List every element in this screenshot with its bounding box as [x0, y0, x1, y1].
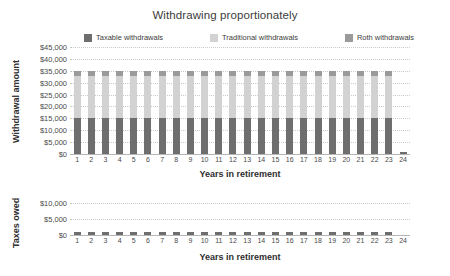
stacked-bar[interactable] [244, 71, 251, 154]
bar-column[interactable]: 15 [268, 47, 282, 154]
stacked-bar[interactable] [300, 71, 307, 154]
bar-column[interactable]: 2 [84, 47, 98, 154]
bar-segment [173, 76, 180, 119]
bar-column[interactable]: 14 [254, 47, 268, 154]
bar-column[interactable]: 21 [353, 47, 367, 154]
bar-segment [244, 76, 251, 119]
x-tick-label: 5 [132, 156, 136, 163]
x-tick-label: 15 [272, 156, 280, 163]
bar-column[interactable]: 7 [155, 196, 169, 235]
bar-column[interactable]: 17 [297, 196, 311, 235]
stacked-bar[interactable] [102, 71, 109, 154]
bar-column[interactable]: 12 [226, 196, 240, 235]
bar-column[interactable]: 24 [396, 47, 410, 154]
bar-column[interactable]: 24 [396, 196, 410, 235]
bar-segment [315, 118, 322, 154]
stacked-bar[interactable] [400, 152, 407, 154]
bar-column[interactable]: 18 [311, 196, 325, 235]
bar-column[interactable]: 21 [353, 196, 367, 235]
bar-column[interactable]: 20 [339, 47, 353, 154]
legend-item-roth[interactable]: Roth withdrawals [345, 33, 414, 42]
bar-column[interactable]: 4 [113, 47, 127, 154]
bar-column[interactable]: 23 [382, 47, 396, 154]
stacked-bar[interactable] [187, 71, 194, 154]
stacked-bar[interactable] [173, 71, 180, 154]
x-tick-label: 24 [399, 156, 407, 163]
bar-column[interactable]: 19 [325, 196, 339, 235]
bar-column[interactable]: 16 [283, 196, 297, 235]
stacked-bar[interactable] [159, 71, 166, 154]
bar-column[interactable]: 5 [127, 196, 141, 235]
bar-column[interactable]: 3 [98, 47, 112, 154]
bar-column[interactable]: 13 [240, 196, 254, 235]
bar-column[interactable]: 9 [183, 47, 197, 154]
stacked-bar[interactable] [329, 71, 336, 154]
x-tick-label: 22 [371, 156, 379, 163]
bar-column[interactable]: 6 [141, 196, 155, 235]
stacked-bar[interactable] [357, 71, 364, 154]
bar-segment [343, 118, 350, 154]
bar [144, 232, 151, 235]
x-tick-label: 9 [189, 156, 193, 163]
bar-column[interactable]: 11 [212, 47, 226, 154]
stacked-bar[interactable] [258, 71, 265, 154]
bar-column[interactable]: 11 [212, 196, 226, 235]
bar-segment [116, 118, 123, 154]
stacked-bar[interactable] [315, 71, 322, 154]
x-tick-label: 10 [201, 237, 209, 244]
bar-column[interactable]: 16 [283, 47, 297, 154]
bar-segment [329, 76, 336, 119]
bar-column[interactable]: 3 [98, 196, 112, 235]
stacked-bar[interactable] [343, 71, 350, 154]
legend-item-taxable[interactable]: Taxable withdrawals [84, 33, 163, 42]
stacked-bar[interactable] [201, 71, 208, 154]
bar-column[interactable]: 8 [169, 196, 183, 235]
bar-column[interactable]: 14 [254, 196, 268, 235]
bar-column[interactable]: 22 [368, 47, 382, 154]
bar-column[interactable]: 5 [127, 47, 141, 154]
bar-column[interactable]: 19 [325, 47, 339, 154]
legend-item-traditional[interactable]: Traditional withdrawals [210, 33, 298, 42]
x-tick-label: 11 [215, 237, 222, 244]
stacked-bar[interactable] [130, 71, 137, 154]
stacked-bar[interactable] [88, 71, 95, 154]
stacked-bar[interactable] [229, 71, 236, 154]
bar-segment [173, 118, 180, 154]
y-tick-label: $45,000 [17, 43, 67, 52]
bar-column[interactable]: 10 [198, 47, 212, 154]
bar-column[interactable]: 4 [113, 196, 127, 235]
bar-column[interactable]: 9 [183, 196, 197, 235]
stacked-bar[interactable] [144, 71, 151, 154]
stacked-bar[interactable] [74, 71, 81, 154]
bar-column[interactable]: 13 [240, 47, 254, 154]
stacked-bar[interactable] [272, 71, 279, 154]
bar-column[interactable]: 18 [311, 47, 325, 154]
bar-column[interactable]: 17 [297, 47, 311, 154]
bar-column[interactable]: 7 [155, 47, 169, 154]
bar-column[interactable]: 12 [226, 47, 240, 154]
gridline [70, 235, 410, 236]
bar-segment [187, 118, 194, 154]
x-tick-label: 16 [286, 156, 294, 163]
bar-column[interactable]: 10 [198, 196, 212, 235]
x-tick-label: 2 [89, 156, 93, 163]
bar-column[interactable]: 1 [70, 196, 84, 235]
bar [116, 232, 123, 235]
bar [286, 232, 293, 235]
stacked-bar[interactable] [385, 71, 392, 154]
x-axis-title-top: Years in retirement [70, 169, 410, 179]
stacked-bar[interactable] [286, 71, 293, 154]
stacked-bar[interactable] [371, 71, 378, 154]
bar-column[interactable]: 15 [268, 196, 282, 235]
stacked-bar[interactable] [215, 71, 222, 154]
bar-column[interactable]: 23 [382, 196, 396, 235]
bar-column[interactable]: 6 [141, 47, 155, 154]
bar-column[interactable]: 20 [339, 196, 353, 235]
stacked-bar[interactable] [116, 71, 123, 154]
bar-column[interactable]: 1 [70, 47, 84, 154]
bar-column[interactable]: 22 [368, 196, 382, 235]
bar-column[interactable]: 8 [169, 47, 183, 154]
bar-segment [357, 118, 364, 154]
bar-column[interactable]: 2 [84, 196, 98, 235]
x-tick-label: 19 [328, 156, 336, 163]
